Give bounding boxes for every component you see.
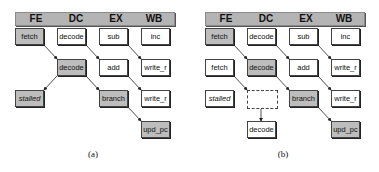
instr-box: decode	[57, 59, 86, 76]
instr-box: decode	[57, 28, 86, 45]
instr-box: write_r	[331, 90, 360, 107]
instr-box: write_r	[331, 59, 360, 76]
instr-box: fetch	[205, 28, 234, 45]
instr-box: upd_pc	[331, 121, 360, 138]
instr-box: decode	[247, 59, 276, 76]
instr-box: add	[289, 59, 318, 76]
instr-box: upd_pc	[141, 121, 170, 138]
instr-box: inc	[331, 28, 360, 45]
instr-box: fetch	[15, 28, 44, 45]
stalled-box: stalled	[205, 90, 234, 107]
instr-box: write_r	[141, 59, 170, 76]
caption-b: (b)	[268, 149, 298, 159]
empty-slot-box	[247, 90, 278, 109]
instr-box: sub	[99, 28, 128, 45]
instr-box: branch	[289, 90, 318, 107]
instr-box: sub	[289, 28, 318, 45]
stalled-box: stalled	[15, 90, 44, 107]
instr-box: branch	[99, 90, 128, 107]
instr-box: decode	[247, 121, 276, 138]
pipeline-diagram-a: FE DC EX WB fetch decode sub inc decode …	[0, 0, 190, 172]
pipeline-diagram-b: FE DC EX WB fetch decode sub inc fetch d…	[190, 0, 379, 172]
instr-box: add	[99, 59, 128, 76]
instr-box: inc	[141, 28, 170, 45]
dependency-arrows	[0, 0, 190, 172]
caption-a: (a)	[78, 149, 108, 159]
instr-box: fetch	[205, 59, 234, 76]
instr-box: write_r	[141, 90, 170, 107]
instr-box: decode	[247, 28, 276, 45]
dependency-arrows	[190, 0, 379, 172]
